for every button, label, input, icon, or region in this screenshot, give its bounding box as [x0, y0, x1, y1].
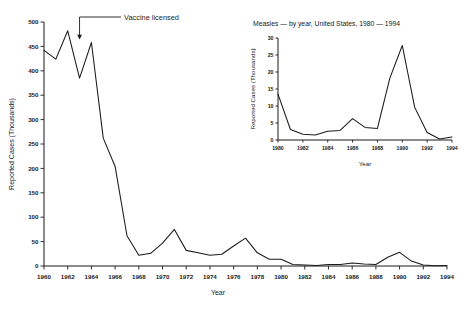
main-x-tick-label: 1988	[369, 273, 383, 280]
main-x-tick-label: 1976	[227, 273, 241, 280]
main-x-tick-group: 1960196219641966196819701972197419761978…	[37, 266, 454, 280]
main-y-tick-label: 250	[28, 140, 39, 147]
main-y-tick-label: 500	[28, 18, 39, 25]
inset-y-tick-label: 30	[268, 35, 274, 41]
chart-canvas: 050100150200250300350400450500 196019621…	[0, 0, 466, 311]
inset-x-tick-label: 1980	[272, 145, 284, 151]
annotation-leader-line	[80, 17, 121, 38]
inset-y-tick-label: 25	[268, 52, 274, 58]
inset-y-tick-label: 0	[271, 137, 274, 143]
main-x-tick-label: 1992	[416, 273, 430, 280]
main-y-tick-label: 200	[28, 165, 39, 172]
main-x-tick-label: 1980	[274, 273, 288, 280]
inset-x-tick-label: 1994	[446, 145, 458, 151]
inset-x-tick-label: 1982	[297, 145, 309, 151]
inset-series-line	[278, 45, 452, 139]
annotation-label: Vaccine licensed	[124, 13, 179, 22]
main-x-tick-label: 1984	[322, 273, 336, 280]
inset-y-tick-label: 15	[268, 86, 274, 92]
inset-x-tick-label: 1990	[397, 145, 409, 151]
main-y-tick-label: 0	[35, 262, 39, 269]
main-y-tick-label: 100	[28, 213, 39, 220]
main-x-tick-label: 1982	[298, 273, 312, 280]
inset-x-axis: 19801982198419861988199019921994	[272, 140, 458, 151]
main-y-tick-label: 350	[28, 91, 39, 98]
main-x-tick-label: 1970	[156, 273, 170, 280]
main-y-tick-group: 050100150200250300350400450500	[28, 18, 44, 269]
main-x-axis-label: Year	[211, 289, 226, 296]
main-x-tick-label: 1966	[108, 273, 122, 280]
inset-y-axis-label: Reported Cases (Thousands)	[249, 48, 256, 129]
main-y-tick-label: 450	[28, 43, 39, 50]
inset-title: Measles — by year, United States, 1980 —…	[253, 20, 400, 28]
inset-x-tick-group: 19801982198419861988199019921994	[272, 140, 458, 151]
main-y-tick-label: 400	[28, 67, 39, 74]
main-chart: 050100150200250300350400450500 196019621…	[8, 13, 454, 296]
inset-y-tick-label: 10	[268, 103, 274, 109]
inset-y-axis: 051015202530	[268, 35, 278, 143]
main-x-tick-label: 1994	[440, 273, 454, 280]
inset-y-tick-group: 051015202530	[268, 35, 278, 143]
main-y-axis-label: Reported Cases (Thousands)	[8, 98, 16, 190]
inset-y-tick-label: 20	[268, 69, 274, 75]
main-series-line	[44, 31, 447, 266]
main-x-tick-label: 1960	[37, 273, 51, 280]
main-x-tick-label: 1962	[61, 273, 75, 280]
measles-incidence-figure: 050100150200250300350400450500 196019621…	[0, 0, 466, 311]
main-x-tick-label: 1974	[203, 273, 217, 280]
inset-x-axis-label: Year	[359, 160, 372, 167]
main-y-tick-label: 50	[32, 238, 39, 245]
main-x-tick-label: 1964	[85, 273, 99, 280]
main-x-tick-label: 1990	[393, 273, 407, 280]
inset-x-tick-label: 1992	[421, 145, 433, 151]
inset-x-tick-label: 1984	[322, 145, 334, 151]
main-x-tick-label: 1978	[250, 273, 264, 280]
main-x-tick-label: 1972	[179, 273, 193, 280]
main-y-axis: 050100150200250300350400450500	[28, 18, 44, 269]
main-x-tick-label: 1986	[345, 273, 359, 280]
inset-chart: Measles — by year, United States, 1980 —…	[249, 20, 458, 167]
main-x-axis: 1960196219641966196819701972197419761978…	[37, 266, 454, 280]
main-y-tick-label: 300	[28, 116, 39, 123]
vaccine-licensed-annotation: Vaccine licensed	[77, 13, 179, 40]
main-x-tick-label: 1968	[132, 273, 146, 280]
inset-x-tick-label: 1986	[347, 145, 359, 151]
inset-x-tick-label: 1988	[372, 145, 384, 151]
main-y-tick-label: 150	[28, 189, 39, 196]
inset-y-tick-label: 5	[271, 120, 274, 126]
annotation-arrowhead-icon	[77, 35, 82, 40]
